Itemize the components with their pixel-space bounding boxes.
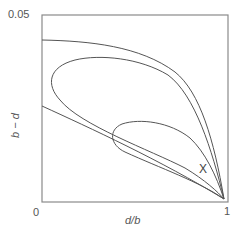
chart-canvas xyxy=(0,0,242,234)
x-axis-label: d/b xyxy=(125,214,140,226)
middle-loop xyxy=(51,57,224,199)
origin-tick-label: 0 xyxy=(33,206,39,218)
x-marker-annotation: X xyxy=(199,162,207,176)
middle-loop-upper xyxy=(168,75,224,199)
x-max-tick-label: 1 xyxy=(224,205,230,217)
y-axis-label: b − d xyxy=(9,113,21,138)
y-max-tick-label: 0.05 xyxy=(8,8,29,20)
lower-line xyxy=(42,106,224,199)
